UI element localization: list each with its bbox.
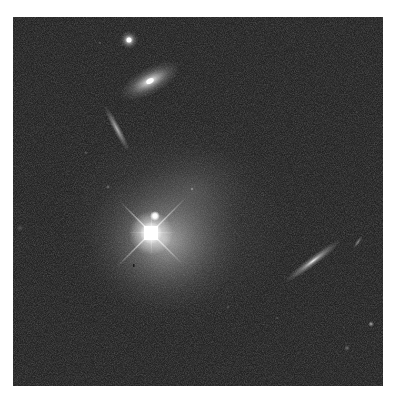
sky-field	[13, 17, 383, 386]
faint-dot-left	[106, 185, 110, 189]
dark-speck	[133, 264, 135, 267]
faint-dot-lower-right	[276, 317, 279, 320]
faint-blob-lower-right	[344, 345, 350, 351]
faint-dot-center	[190, 187, 194, 191]
companion-knot	[150, 211, 160, 221]
round-galaxy-top	[120, 31, 138, 49]
host-halo	[60, 120, 290, 330]
faint-blob-left	[16, 224, 24, 232]
small-star-right	[368, 321, 374, 327]
faint-dot-lower	[226, 305, 230, 309]
astronomical-image	[13, 17, 383, 386]
faint-dot-top-left	[98, 41, 102, 45]
faint-dot-mid-left	[84, 151, 88, 155]
